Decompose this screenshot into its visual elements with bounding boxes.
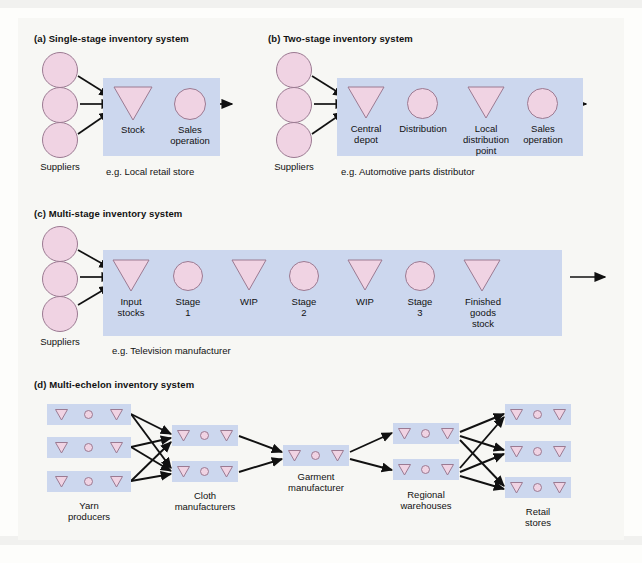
triangle-icon (510, 446, 523, 458)
section-c-finished-goods-triangle (463, 259, 501, 293)
circle-icon (311, 451, 320, 460)
triangle-icon (553, 446, 566, 458)
section-a-stock-label: Stock (108, 124, 158, 136)
section-b-central-depot-label-line1: Central (338, 123, 394, 135)
section-c-stage-2-circle (289, 261, 319, 291)
triangle-icon (110, 476, 123, 488)
circle-icon (200, 431, 209, 440)
section-c-wip-2-label: WIP (338, 296, 392, 308)
section-b-sales-label-line2: operation (513, 134, 573, 146)
yarn-producers-label-line1: Yarn (49, 500, 129, 512)
section-c-stage-2-label-line2: 2 (277, 307, 331, 319)
section-a-title: (a) Single-stage inventory system (34, 33, 189, 44)
triangle-icon (55, 476, 68, 488)
triangle-icon (331, 450, 344, 462)
group-yarn-producer-3 (47, 471, 131, 492)
yarn-producers-label-line2: producers (49, 511, 129, 523)
figure-page: (a) Single-stage inventory system Suppli… (0, 0, 642, 563)
section-c-wip-1-label: WIP (222, 296, 276, 308)
section-c-finished-label-line1: Finished (454, 296, 512, 308)
triangle-icon (220, 466, 233, 478)
section-b-supplier-2 (276, 87, 312, 123)
garment-manufacturer-label-line2: manufacturer (268, 482, 364, 494)
section-c-input-stocks-label-line2: stocks (104, 307, 158, 319)
group-regional-warehouse-1 (393, 423, 459, 444)
section-b-central-depot-triangle (347, 86, 385, 120)
triangle-icon (553, 482, 566, 494)
triangle-icon (55, 442, 68, 454)
section-c-stage-1-circle (173, 261, 203, 291)
retail-stores-label-line1: Retail (508, 506, 568, 518)
section-b-distribution-label: Distribution (392, 123, 454, 135)
triangle-icon (55, 409, 68, 421)
regional-warehouses-label-line2: warehouses (378, 500, 474, 512)
garment-manufacturer-label-line1: Garment (268, 471, 364, 483)
section-a-example: e.g. Local retail store (106, 166, 194, 177)
triangle-icon (177, 466, 190, 478)
section-a-supplier-1 (42, 52, 78, 88)
triangle-icon (510, 482, 523, 494)
section-b-local-label-line3: point (456, 145, 516, 157)
section-b-sales-label-line1: Sales (513, 123, 573, 135)
group-regional-warehouse-2 (393, 459, 459, 480)
triangle-icon (288, 450, 301, 462)
circle-icon (84, 477, 93, 486)
retail-stores-label-line2: stores (508, 517, 568, 529)
group-yarn-producer-2 (47, 437, 131, 458)
circle-icon (533, 410, 542, 419)
section-a-sales-label-line1: Sales (160, 124, 220, 136)
section-b-suppliers-label: Suppliers (268, 161, 320, 173)
section-c-stage-1-label-line2: 1 (161, 307, 215, 319)
cloth-manufacturers-label-line1: Cloth (155, 490, 255, 502)
circle-icon (533, 447, 542, 456)
section-c-finished-label-line2: goods (454, 307, 512, 319)
triangle-icon (441, 428, 454, 440)
triangle-icon (441, 464, 454, 476)
section-b-local-distribution-triangle (467, 86, 505, 120)
circle-icon (200, 467, 209, 476)
group-retail-store-3 (505, 477, 571, 498)
group-retail-store-2 (505, 441, 571, 462)
section-c-wip-2-triangle (347, 259, 383, 292)
section-a-stock-triangle (113, 86, 153, 122)
triangle-icon (110, 442, 123, 454)
section-c-wip-1-triangle (231, 259, 267, 292)
section-b-local-label-line2: distribution (456, 134, 516, 146)
section-b-sales-circle (527, 88, 558, 119)
section-b-supplier-3 (276, 122, 312, 158)
triangle-icon (110, 409, 123, 421)
circle-icon (84, 443, 93, 452)
section-c-input-stocks-triangle (112, 259, 150, 293)
section-c-supplier-2 (42, 261, 78, 297)
cloth-manufacturers-label-line2: manufacturers (155, 501, 255, 513)
section-a-supplier-3 (42, 122, 78, 158)
section-c-suppliers-label: Suppliers (34, 336, 86, 348)
circle-icon (421, 429, 430, 438)
triangle-icon (220, 430, 233, 442)
section-c-supplier-1 (42, 226, 78, 262)
scan-artifact-top (0, 0, 642, 8)
triangle-icon (553, 409, 566, 421)
triangle-icon (510, 409, 523, 421)
section-c-supplier-3 (42, 296, 78, 332)
section-a-supplier-2 (42, 87, 78, 123)
section-c-input-stocks-label-line1: Input (104, 296, 158, 308)
group-cloth-manufacturer-2 (172, 461, 238, 482)
regional-warehouses-label-line1: Regional (378, 489, 474, 501)
group-retail-store-1 (505, 404, 571, 425)
triangle-icon (398, 428, 411, 440)
section-c-stage-3-circle (405, 261, 435, 291)
section-a-sales-circle (174, 88, 206, 120)
circle-icon (421, 465, 430, 474)
section-a-sales-label-line2: operation (160, 135, 220, 147)
group-cloth-manufacturer-1 (172, 425, 238, 446)
triangle-icon (398, 464, 411, 476)
circle-icon (84, 410, 93, 419)
section-b-distribution-circle (407, 88, 438, 119)
section-b-supplier-1 (276, 52, 312, 88)
group-garment-manufacturer (283, 445, 349, 466)
section-c-stage-2-label-line1: Stage (277, 296, 331, 308)
section-c-stage-3-label-line1: Stage (393, 296, 447, 308)
group-yarn-producer-1 (47, 404, 131, 425)
section-c-stage-3-label-line2: 3 (393, 307, 447, 319)
